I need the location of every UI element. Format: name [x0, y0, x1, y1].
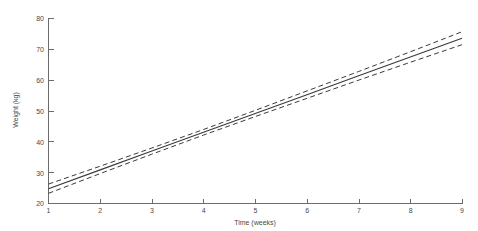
- x-tick-label-3: 3: [150, 207, 154, 214]
- x-tick-label-7: 7: [357, 207, 361, 214]
- fitted-regression-line: [49, 38, 463, 188]
- y-tick-label-20: 20: [36, 200, 44, 207]
- x-tick-label-2: 2: [98, 207, 102, 214]
- axis-lines: [48, 18, 462, 204]
- x-axis-tick-labels: 1 2 3 4 5 6 7 8 9: [47, 207, 465, 214]
- y-tick-label-40: 40: [36, 139, 44, 146]
- lower-confidence-band: [49, 45, 463, 194]
- y-axis-tick-labels: 80 70 60 50 40 30 20: [36, 15, 44, 207]
- x-tick-label-6: 6: [305, 207, 309, 214]
- y-tick-label-80: 80: [36, 15, 44, 22]
- x-tick-label-9: 9: [460, 207, 464, 214]
- y-axis-ticks: [49, 19, 54, 204]
- data-series-group: [49, 32, 463, 194]
- y-axis-title: Weight (kg): [12, 92, 20, 128]
- x-tick-label-1: 1: [47, 207, 51, 214]
- upper-confidence-band: [49, 32, 463, 184]
- y-tick-label-60: 60: [36, 77, 44, 84]
- y-tick-label-50: 50: [36, 108, 44, 115]
- chart-figure: 80 70 60 50 40 30 20 1 2 3 4 5 6: [0, 0, 478, 231]
- x-axis-ticks: [49, 199, 463, 204]
- y-tick-label-30: 30: [36, 170, 44, 177]
- x-axis-title: Time (weeks): [234, 219, 276, 227]
- y-tick-label-70: 70: [36, 46, 44, 53]
- x-tick-label-8: 8: [409, 207, 413, 214]
- x-tick-label-5: 5: [254, 207, 258, 214]
- x-tick-label-4: 4: [202, 207, 206, 214]
- regression-plot: 80 70 60 50 40 30 20 1 2 3 4 5 6: [0, 0, 478, 231]
